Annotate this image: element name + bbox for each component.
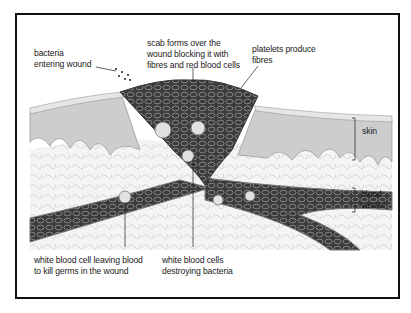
label-skin: skin [362, 126, 377, 137]
label-bacteria: bacteria entering wound [34, 48, 91, 70]
label-wbc-destroying: white blood cells destroying bacteria [162, 255, 233, 277]
label-platelets: platelets produce fibres [252, 44, 316, 66]
label-scab: scab forms over the wound blocking it wi… [147, 38, 240, 71]
label-wbc-leaving: white blood cell leaving blood to kill g… [34, 255, 143, 277]
label-blood-vessel: blood vessel [361, 189, 385, 211]
bacteria-dots [115, 68, 131, 81]
